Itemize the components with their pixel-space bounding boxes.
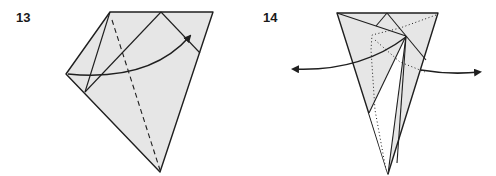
step-14-diagram bbox=[293, 13, 480, 174]
unfold-right-arrow-icon bbox=[421, 70, 480, 73]
step-13-diagram bbox=[66, 12, 213, 172]
paper-shape bbox=[66, 12, 213, 172]
origami-diagrams bbox=[0, 0, 496, 176]
